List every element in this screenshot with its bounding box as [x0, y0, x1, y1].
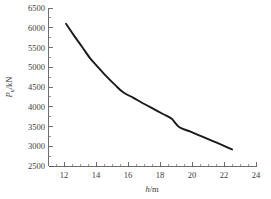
- svg-text:h/m: h/m: [145, 184, 159, 194]
- x-major-ticks: [64, 162, 256, 167]
- y-tick-label: 5000: [28, 62, 45, 72]
- y-tick-label: 4000: [28, 102, 45, 112]
- y-tick-label: 6500: [28, 3, 45, 13]
- y-tick-label: 5500: [28, 43, 45, 53]
- x-tick-label: 14: [92, 170, 101, 180]
- y-tick-label: 6000: [28, 23, 45, 33]
- x-axis-title: h/m: [145, 184, 159, 194]
- x-tick-label: 22: [220, 170, 229, 180]
- y-tick-label: 3000: [28, 141, 45, 151]
- x-tick-label: 16: [124, 170, 133, 180]
- y-tick-label: 4500: [28, 82, 45, 92]
- y-axis-title-rest: /kN: [4, 77, 14, 90]
- axis-lines: [49, 8, 257, 167]
- x-tick-label: 18: [156, 170, 165, 180]
- y-tick-label: 2500: [28, 161, 45, 171]
- x-minor-ticks: [56, 164, 248, 167]
- y-major-ticks: [49, 8, 54, 166]
- x-tick-labels: 12 14 16 18 20 22 24: [60, 170, 261, 180]
- data-curve-pu: [66, 24, 232, 150]
- chart-figure: 6500 6000 5500 5000 4500 4000 3500 3000 …: [0, 0, 271, 199]
- y-tick-label: 3500: [28, 122, 45, 132]
- y-axis-title: Pu/kN: [4, 77, 15, 99]
- x-tick-label: 12: [60, 170, 69, 180]
- svg-text:Pu/kN: Pu/kN: [4, 77, 15, 99]
- y-tick-labels: 6500 6000 5500 5000 4500 4000 3500 3000 …: [28, 3, 45, 171]
- chart-svg: 6500 6000 5500 5000 4500 4000 3500 3000 …: [0, 0, 271, 199]
- x-tick-label: 20: [188, 170, 197, 180]
- x-axis-title-rest: /m: [150, 184, 159, 194]
- x-tick-label: 24: [252, 170, 261, 180]
